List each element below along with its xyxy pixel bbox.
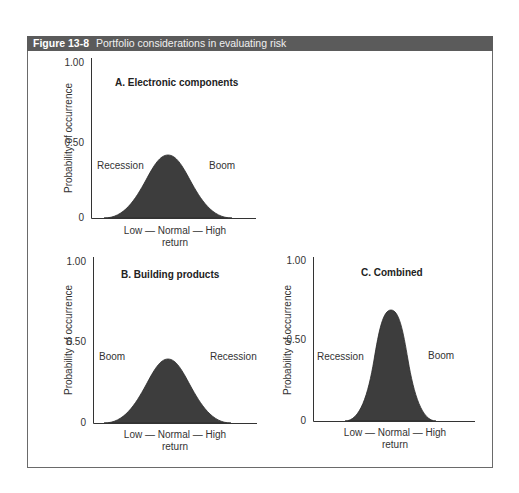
chart-a: Probability of occurrence 1.00 0.50 0 A.…	[63, 57, 256, 248]
chart-b-title: B. Building products	[121, 269, 220, 280]
chart-a-xlabel: Low — Normal — High	[124, 225, 226, 236]
chart-c-distribution-curve	[345, 310, 436, 421]
chart-c-ytick-0: 0	[300, 415, 306, 426]
chart-b-ytick-050: 0.50	[67, 336, 87, 347]
chart-c-title: C. Combined	[361, 267, 423, 278]
chart-a-ytick-0: 0	[78, 212, 84, 223]
chart-b-xlabel: Low — Normal — High	[124, 429, 226, 440]
chart-a-annotation-left: Recession	[97, 160, 144, 171]
chart-a-xlabel-return: return	[162, 237, 188, 248]
chart-b-ytick-0: 0	[80, 417, 86, 428]
chart-a-ytick-100: 1.00	[65, 57, 85, 68]
chart-b-ytick-100: 1.00	[67, 256, 87, 267]
chart-a-ytick-050: 0.50	[65, 137, 85, 148]
chart-c-ytick-050: 0.50	[287, 334, 307, 345]
chart-a-title: A. Electronic components	[115, 77, 239, 88]
chart-c-annotation-left: Recession	[317, 351, 364, 362]
chart-b: Probability of occurrence 1.00 0.50 0 B.…	[63, 256, 257, 452]
chart-b-distribution-curve	[104, 359, 231, 423]
chart-c-xlabel: Low — Normal — High	[344, 427, 446, 438]
chart-c-ytick-100: 1.00	[287, 255, 307, 266]
chart-c-xlabel-return: return	[382, 439, 408, 450]
chart-b-xlabel-return: return	[162, 441, 188, 452]
chart-c-annotation-right: Boom	[428, 350, 454, 361]
chart-b-annotation-right: Recession	[210, 351, 257, 362]
chart-a-annotation-right: Boom	[209, 160, 235, 171]
chart-c: Probability of occurrence 1.00 0.50 0 C.…	[282, 255, 475, 450]
chart-b-annotation-left: Boom	[99, 351, 125, 362]
